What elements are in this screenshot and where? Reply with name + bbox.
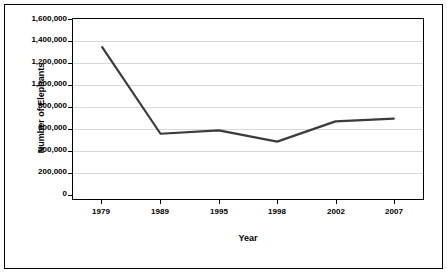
- y-tick-label-800000: 800,000: [13, 102, 67, 110]
- y-tick-label-1200000: 1,200,000: [13, 58, 67, 66]
- x-tick-mark-1979: [101, 200, 102, 204]
- data-series-line: [73, 19, 423, 199]
- x-tick-mark-1989: [160, 200, 161, 204]
- x-tick-mark-2007: [394, 200, 395, 204]
- x-tick-label-1998: 1998: [257, 207, 297, 216]
- elephant-population-chart: Number of Elephants 1,600,000 1,400,000 …: [0, 0, 447, 273]
- x-axis-title: Year: [72, 233, 424, 243]
- y-tick-label-1400000: 1,400,000: [13, 36, 67, 44]
- plot-area: [72, 18, 424, 200]
- x-tick-label-1995: 1995: [199, 207, 239, 216]
- y-tick-label-1600000: 1,600,000: [13, 15, 67, 23]
- x-tick-label-1979: 1979: [81, 207, 121, 216]
- x-tick-mark-1995: [219, 200, 220, 204]
- x-tick-label-1989: 1989: [140, 207, 180, 216]
- y-tick-label-1000000: 1,000,000: [13, 80, 67, 88]
- x-tick-label-2002: 2002: [316, 207, 356, 216]
- y-tick-label-600000: 600,000: [13, 124, 67, 132]
- x-tick-label-2007: 2007: [374, 207, 414, 216]
- y-tick-label-400000: 400,000: [13, 146, 67, 154]
- x-tick-mark-2002: [336, 200, 337, 204]
- x-tick-mark-1998: [277, 200, 278, 204]
- y-tick-label-0: 0: [13, 190, 67, 198]
- y-tick-label-200000: 200,000: [13, 168, 67, 176]
